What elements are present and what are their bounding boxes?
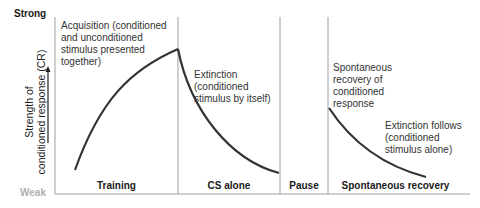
acq-line: Acquisition (conditioned (61, 20, 167, 32)
phase-pause: Pause (280, 180, 328, 191)
phase-spontaneous-recovery: Spontaneous recovery (328, 180, 463, 191)
extinction-follows-annotation: Extinction follows (conditioned stimulus… (385, 120, 462, 156)
y-axis-title-line1: Strength of (23, 37, 35, 187)
spont-line: response (333, 98, 392, 110)
extf-line: stimulus alone) (385, 144, 462, 156)
y-axis-title-line2: conditioned response (CR) (35, 37, 47, 187)
acquisition-annotation: Acquisition (conditioned and uncondition… (61, 20, 167, 68)
ext-line: Extinction (194, 69, 271, 81)
y-axis-title: Strength of conditioned response (CR) (23, 37, 47, 187)
acq-line: together) (61, 56, 167, 68)
spont-line: recovery of (333, 74, 392, 86)
extf-line: (conditioned (385, 132, 462, 144)
phase-cs-alone: CS alone (178, 180, 280, 191)
spont-line: conditioned (333, 86, 392, 98)
y-top-label: Strong (14, 8, 46, 19)
ext-line: (conditioned (194, 81, 271, 93)
y-bottom-label: Weak (20, 187, 46, 198)
extinction-curve (178, 49, 279, 173)
acq-line: stimulus presented (61, 44, 167, 56)
spontaneous-annotation: Spontaneous recovery of conditioned resp… (333, 62, 392, 110)
ext-line: stimulus by itself) (194, 93, 271, 105)
spont-line: Spontaneous (333, 62, 392, 74)
extf-line: Extinction follows (385, 120, 462, 132)
acq-line: and unconditioned (61, 32, 167, 44)
extinction-annotation: Extinction (conditioned stimulus by itse… (194, 69, 271, 105)
phase-training: Training (55, 180, 178, 191)
